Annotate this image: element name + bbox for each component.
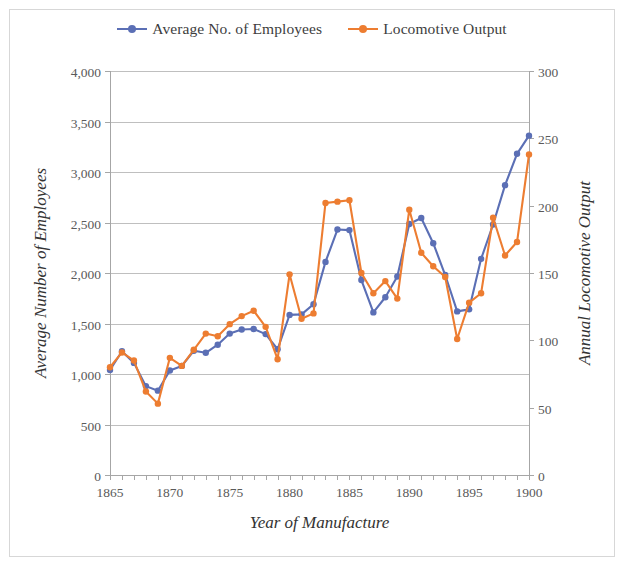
data-point [227, 321, 233, 327]
data-point [358, 270, 364, 276]
data-point [430, 240, 436, 246]
data-point [502, 182, 508, 188]
x-axis-title: Year of Manufacture [250, 513, 390, 532]
y-axis-left-title: Average Number of Employees [31, 168, 50, 379]
data-point [382, 278, 388, 284]
x-tick-label: 1875 [216, 485, 243, 500]
plot-area: 05001,0001,5002,0002,5003,0003,5004,0000… [0, 0, 624, 566]
series-line-1 [110, 154, 529, 403]
x-tick-label: 1865 [97, 485, 124, 500]
data-point [179, 363, 185, 369]
data-point [490, 215, 496, 221]
data-point [310, 310, 316, 316]
data-point [370, 290, 376, 296]
data-point [346, 197, 352, 203]
y-right-tick-label: 200 [538, 200, 559, 215]
data-point [430, 263, 436, 269]
y-right-tick-label: 100 [538, 334, 559, 349]
data-point [191, 347, 197, 353]
data-point [346, 227, 352, 233]
data-point [418, 215, 424, 221]
y-right-tick-label: 250 [538, 132, 559, 147]
data-point [502, 252, 508, 258]
data-point [454, 308, 460, 314]
data-point [322, 259, 328, 265]
y-right-tick-label: 0 [538, 469, 545, 484]
data-point [238, 326, 244, 332]
data-point [155, 400, 161, 406]
data-point [250, 308, 256, 314]
y-right-tick-label: 300 [538, 65, 559, 80]
x-tick-label: 1870 [156, 485, 183, 500]
data-point [215, 333, 221, 339]
y-left-tick-label: 2,500 [71, 217, 102, 232]
y-left-tick-label: 2,000 [71, 267, 102, 282]
chart-svg: 05001,0001,5002,0002,5003,0003,5004,0000… [0, 0, 624, 566]
y-left-tick-label: 1,500 [71, 318, 102, 333]
data-point [143, 388, 149, 394]
y-left-tick-label: 3,500 [71, 116, 102, 131]
data-point [215, 342, 221, 348]
data-point [167, 355, 173, 361]
data-point [286, 271, 292, 277]
y-left-tick-label: 3,000 [71, 166, 102, 181]
data-point [454, 336, 460, 342]
y-left-tick-label: 1,000 [71, 368, 102, 383]
y-right-tick-label: 150 [538, 267, 559, 282]
data-point [203, 330, 209, 336]
data-point [466, 299, 472, 305]
x-tick-label: 1880 [276, 485, 303, 500]
data-point [262, 324, 268, 330]
data-point [514, 239, 520, 245]
y-left-tick-label: 500 [81, 419, 102, 434]
data-point [478, 256, 484, 262]
data-point [406, 207, 412, 213]
data-point [227, 330, 233, 336]
x-tick-label: 1885 [336, 485, 363, 500]
x-tick-label: 1900 [516, 485, 543, 500]
data-point [526, 132, 532, 138]
y-right-tick-label: 50 [538, 402, 552, 417]
x-tick-label: 1890 [396, 485, 423, 500]
data-point [394, 295, 400, 301]
x-tick-label: 1895 [456, 485, 483, 500]
data-point [238, 313, 244, 319]
y-left-tick-label: 4,000 [71, 65, 102, 80]
data-point [274, 356, 280, 362]
data-point [334, 198, 340, 204]
data-point [119, 349, 125, 355]
y-left-tick-label: 0 [94, 469, 101, 484]
data-point [131, 357, 137, 363]
y-axis-right-title: Annual Locomotive Output [575, 180, 594, 366]
data-point [250, 326, 256, 332]
data-point [107, 364, 113, 370]
data-point [442, 274, 448, 280]
data-point [370, 309, 376, 315]
data-point [478, 290, 484, 296]
chart-figure: Average No. of Employees Locomotive Outp… [0, 0, 624, 566]
data-point [418, 250, 424, 256]
data-point [286, 312, 292, 318]
data-point [322, 200, 328, 206]
data-point [526, 151, 532, 157]
data-point [203, 350, 209, 356]
data-point [334, 226, 340, 232]
data-point [514, 151, 520, 157]
data-point [382, 294, 388, 300]
data-point [298, 316, 304, 322]
